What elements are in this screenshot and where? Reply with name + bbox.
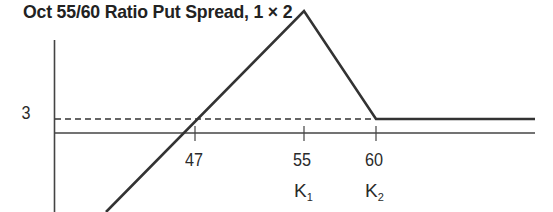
payoff-chart: [0, 0, 553, 212]
payoff-line: [106, 11, 535, 212]
x-tick-label-55: 55: [293, 150, 311, 171]
strike-k2-letter: K: [365, 180, 378, 201]
strike-k2-subscript: 2: [378, 191, 384, 203]
x-tick-label-47: 47: [185, 150, 203, 171]
strike-k1-letter: K: [294, 180, 307, 201]
x-tick-label-60: 60: [365, 150, 383, 171]
strike-label-k1: K1: [294, 180, 313, 203]
strike-label-k2: K2: [365, 180, 384, 203]
y-tick-label-3: 3: [22, 103, 31, 124]
strike-k1-subscript: 1: [307, 191, 313, 203]
